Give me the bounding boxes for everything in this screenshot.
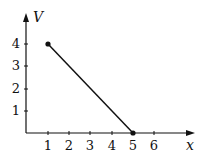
x-tick-label-6: 6 [150,138,158,153]
y-tick-label-3: 3 [12,58,20,73]
y-axis-label: V [33,9,45,25]
data-point-start [45,41,50,46]
y-tick-label-4: 4 [12,36,20,51]
y-axis-arrow-icon [23,13,29,22]
x-tick-label-4: 4 [108,138,116,153]
x-tick-label-2: 2 [65,138,73,153]
x-tick-label-3: 3 [86,138,94,153]
x-tick-label-5: 5 [129,138,137,153]
chart: 1 2 3 4 5 6 1 2 3 4 V x [0,0,207,160]
y-tick-label-2: 2 [12,81,20,96]
data-line [48,44,133,133]
x-tick-label-1: 1 [44,138,52,153]
x-axis-label: x [186,137,194,153]
y-tick-label-1: 1 [12,103,20,118]
x-axis-arrow-icon [186,130,195,136]
data-point-end [130,130,135,135]
